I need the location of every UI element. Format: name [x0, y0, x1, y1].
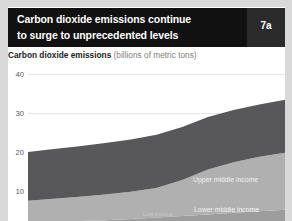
y-tick-20: 20 — [8, 148, 24, 157]
chart-subtitle-unit: (billions of metric tons) — [114, 50, 197, 60]
figure-title: Carbon dioxide emissions continue to sur… — [17, 12, 222, 43]
figure-number-label: 7a — [247, 20, 285, 31]
y-tick-40: 40 — [8, 70, 24, 79]
title-line-1: Carbon dioxide emissions continue — [17, 12, 222, 28]
figure-panel: Carbon dioxide emissions continue to sur… — [0, 0, 292, 221]
series-label-upper-middle-income: Upper middle income — [193, 176, 258, 183]
y-tick-30: 30 — [8, 109, 24, 118]
series-label-high-income: High income — [215, 94, 253, 101]
figure-title-bar: Carbon dioxide emissions continue to sur… — [8, 8, 285, 47]
y-tick-10: 10 — [8, 187, 24, 196]
chart-subtitle-bold: Carbon dioxide emissions — [8, 50, 111, 60]
chart-plot-area — [28, 63, 285, 221]
chart-subtitle: Carbon dioxide emissions (billions of me… — [8, 50, 283, 60]
title-line-2: to surge to unprecedented levels — [17, 28, 222, 44]
series-label-lower-middle-income: Lower middle income — [194, 206, 259, 213]
stacked-area-paths — [28, 63, 285, 221]
series-label-low-income: Low income — [143, 211, 173, 217]
figure-number-badge: 7a — [247, 8, 285, 47]
stacked-area-chart: 40 30 20 10 High income Upper middle inc… — [8, 63, 285, 221]
